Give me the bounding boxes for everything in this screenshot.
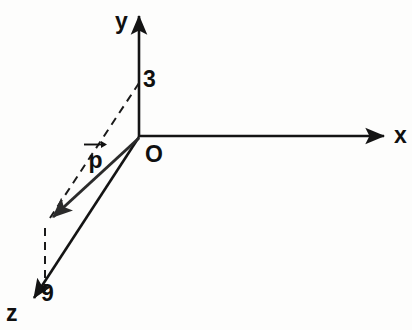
y-axis-label: y [115,10,128,33]
z-axis-label: z [6,302,18,325]
z-intercept-value-label: 9 [41,282,54,305]
vector-p-label-group: p [83,139,108,172]
figure-canvas: y x z O 3 9 p [0,0,412,330]
x-axis-label: x [394,124,407,147]
vector-diagram-svg [0,0,412,330]
origin-label: O [145,143,163,166]
vector-p-letter: p [88,149,102,172]
y-intercept-value-label: 3 [143,68,156,91]
